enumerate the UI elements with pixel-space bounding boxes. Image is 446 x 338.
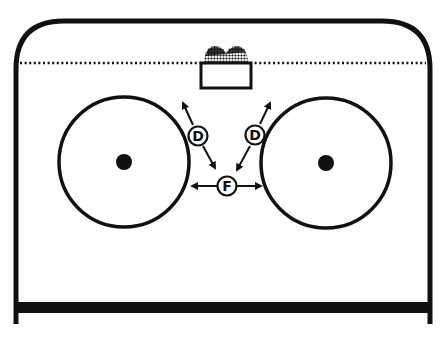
faceoff-circle-right (261, 98, 391, 228)
net-frame (201, 63, 251, 88)
arrow-icon (203, 146, 215, 168)
arrow-icon (260, 103, 270, 124)
rink-canvas: D D F (0, 0, 446, 338)
faceoff-circle-left (59, 97, 189, 227)
hockey-zone-diagram: D D F (0, 0, 446, 338)
faceoff-dot-left (116, 154, 132, 170)
goal-net (201, 46, 251, 88)
faceoff-dot-right (318, 155, 334, 171)
player-defense-right: D (246, 126, 265, 145)
player-label: F (222, 178, 232, 194)
player-label: D (249, 127, 261, 143)
player-label: D (192, 128, 204, 144)
end-bar (16, 302, 430, 313)
arrow-icon (183, 103, 193, 125)
player-defense-left: D (189, 127, 208, 146)
arrow-icon (237, 146, 250, 170)
player-forward: F (218, 177, 237, 196)
